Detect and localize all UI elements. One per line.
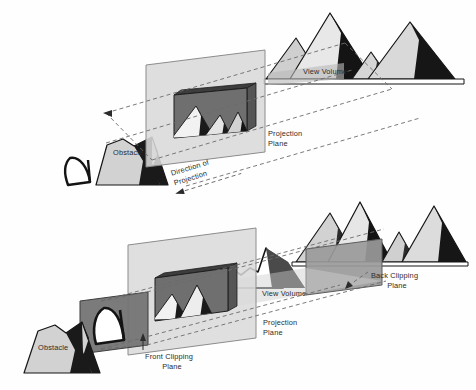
label-front-clipping-line1: Front Clipping [145, 352, 193, 361]
projection-window-top-side [247, 83, 256, 131]
label-front-clipping-line2: Plane [162, 362, 182, 371]
projection-diagram-figure: Obstacle View Volume Projection Plane Di… [0, 0, 476, 390]
label-view-volume-top: View Volume [303, 67, 347, 76]
label-view-volume-bottom: View Volume [262, 289, 306, 298]
label-back-clipping-line1: Back Clipping [371, 271, 418, 280]
label-obstacle-top: Obstacle [113, 148, 143, 157]
label-projection-plane-bottom-line2: Plane [263, 328, 283, 337]
label-projection-plane-top-line1: Projection [268, 129, 302, 138]
label-projection-plane-bottom-line1: Projection [263, 318, 297, 327]
label-projection-plane-top-line2: Plane [268, 139, 288, 148]
label-back-clipping-line2: Plane [387, 281, 407, 290]
front-clip-eye-silhouette [94, 308, 124, 344]
label-obstacle-bottom: Obstacle [38, 343, 68, 352]
diagram-canvas: Obstacle View Volume Projection Plane Di… [0, 0, 476, 390]
